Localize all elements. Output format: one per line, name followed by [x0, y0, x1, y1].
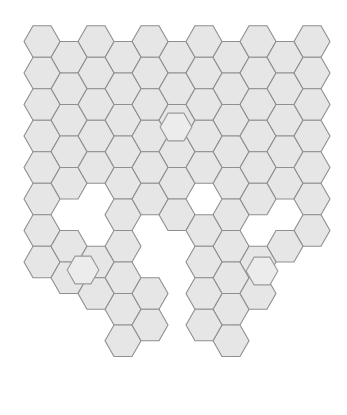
- hex-tiling-canvas: [0, 0, 347, 415]
- hex-tiling-figure: [0, 0, 347, 415]
